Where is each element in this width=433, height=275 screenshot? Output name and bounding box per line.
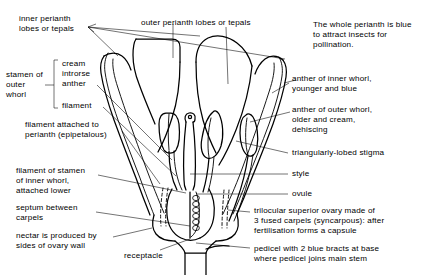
label-receptacle: receptacle [124, 251, 163, 261]
label-filament: filament [62, 101, 92, 111]
stamen-bracket [45, 60, 58, 108]
label-septum-between-carpels: septum between carpels [16, 203, 78, 223]
label-nectar: nectar is produced by sides of ovary wal… [16, 231, 97, 251]
label-perianth-note: The whole perianth is blue to attract in… [313, 20, 412, 51]
label-outer-perianth: outer perianth lobes or tepals [141, 18, 251, 28]
label-pedicel: pedicel with 2 blue bracts at base where… [254, 244, 379, 264]
flower-diagram-page: outer perianth lobes or tepals inner per… [0, 0, 433, 275]
label-anther-outer-whorl: anther of outer whorl, older and cream, … [292, 105, 372, 136]
label-filament-attached-epipetalous: filament attached to perianth (epipetalo… [25, 120, 107, 140]
label-inner-perianth: inner perianth lobes or tepals [19, 14, 74, 34]
label-stigma: triangularly-lobed stigma [292, 148, 384, 158]
flower-outline [101, 36, 287, 275]
label-cream-introrse-anther: cream introrse anther [62, 59, 90, 90]
label-style: style [292, 169, 309, 179]
label-filament-inner-whorl: filament of stamen of inner whorl, attac… [16, 166, 85, 197]
label-anther-inner-whorl: anther of inner whorl, younger and blue [292, 74, 372, 94]
label-ovary: trilocular superior ovary made of 3 fuse… [254, 206, 384, 237]
label-ovule: ovule [292, 189, 312, 199]
label-stamen-outer-whorl: stamen of outer whorl [6, 70, 43, 101]
